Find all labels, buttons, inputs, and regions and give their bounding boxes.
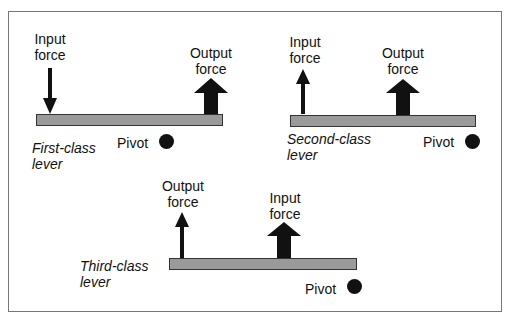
input-force-label-line2: force (28, 47, 72, 63)
output-force-label-line2: force (376, 61, 430, 77)
input-force-label-line2: force (283, 50, 327, 66)
input-force-label: Input force (283, 34, 327, 66)
output-force-arrow-up-icon (194, 78, 228, 114)
output-force-label-line1: Output (376, 45, 430, 61)
output-force-label-line2: force (156, 194, 210, 210)
lever-bar (36, 114, 223, 126)
lever-name-line2: lever (80, 274, 148, 290)
output-force-label-line2: force (184, 61, 238, 77)
lever-name: Second-class lever (287, 131, 371, 163)
lever-bar (169, 258, 357, 270)
output-force-label-line1: Output (156, 178, 210, 194)
input-force-label-line1: Input (263, 190, 307, 206)
lever-name-line1: First-class (32, 140, 96, 156)
lever-bar (290, 115, 476, 127)
output-force-arrow-up-icon (386, 79, 420, 115)
lever-name-line2: lever (32, 156, 96, 172)
input-force-arrow-up-icon (267, 222, 301, 258)
input-force-arrow-down-icon (43, 68, 57, 114)
input-force-label-line1: Input (283, 34, 327, 50)
output-force-label: Output force (376, 45, 430, 77)
lever-name-line1: Second-class (287, 131, 371, 147)
output-force-label: Output force (184, 45, 238, 77)
output-force-label-line1: Output (184, 45, 238, 61)
input-force-label-line1: Input (28, 31, 72, 47)
pivot-dot-icon (159, 134, 174, 149)
pivot-label: Pivot (305, 281, 336, 297)
pivot-label: Pivot (117, 135, 148, 151)
input-force-label-line2: force (263, 206, 307, 222)
pivot-dot-icon (347, 279, 362, 294)
output-force-arrow-up-icon (175, 212, 189, 258)
input-force-arrow-up-icon (296, 69, 310, 114)
lever-name-line2: lever (287, 147, 371, 163)
pivot-dot-icon (465, 134, 480, 149)
lever-name: Third-class lever (80, 258, 148, 290)
lever-name-line1: Third-class (80, 258, 148, 274)
input-force-label: Input force (28, 31, 72, 63)
output-force-label: Output force (156, 178, 210, 210)
pivot-label: Pivot (423, 134, 454, 150)
lever-name: First-class lever (32, 140, 96, 172)
input-force-label: Input force (263, 190, 307, 222)
